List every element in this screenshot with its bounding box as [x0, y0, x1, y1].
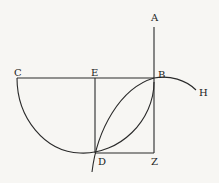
- diagram: A B C E D Z H: [0, 0, 219, 183]
- label-H: H: [199, 88, 208, 98]
- label-B: B: [158, 70, 165, 80]
- label-E: E: [91, 68, 98, 78]
- diagram-figure: [0, 0, 219, 183]
- label-D: D: [98, 157, 106, 167]
- label-C: C: [14, 68, 22, 78]
- label-Z: Z: [151, 157, 158, 167]
- label-A: A: [151, 13, 158, 23]
